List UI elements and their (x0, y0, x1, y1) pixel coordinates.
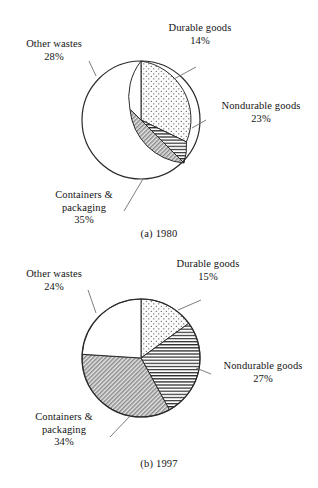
pie-a-label-durable-name: Durable goods (169, 22, 232, 33)
pie-b-label-durable-name: Durable goods (177, 258, 240, 269)
pie-a-label-nondurable-name: Nondurable goods (222, 100, 301, 111)
pie-a-label-nondurable: Nondurable goods 23% (209, 100, 313, 125)
pie-a-leader-nondurable (192, 120, 206, 128)
pie-a-label-durable-pct: 14% (147, 35, 253, 48)
pie-a-label-containers-line1: Containers & (55, 189, 112, 200)
pie-b-label-other: Other wastes 24% (8, 268, 100, 293)
pie-b-label-nondurable-name: Nondurable goods (224, 360, 303, 371)
pie-b-label-containers-line2: packaging (22, 424, 106, 437)
pie-b-label-other-name: Other wastes (26, 268, 82, 279)
pie-b-label-containers-pct: 34% (22, 436, 106, 449)
pie-a-label-other-name: Other wastes (26, 38, 82, 49)
pie-a-label-durable: Durable goods 14% (147, 22, 253, 47)
pie-b-label-durable-pct: 15% (155, 271, 261, 284)
pie-b-leader-containers (110, 415, 131, 437)
pie-a-label-other-pct: 28% (8, 51, 100, 64)
pie-a-caption: (a) 1980 (0, 228, 318, 239)
pie-b-leader-other (88, 290, 96, 313)
pie-a-label-containers: Containers & packaging 35% (42, 189, 126, 227)
pie-a-label-containers-pct: 35% (42, 214, 126, 227)
pie-b-label-nondurable-pct: 27% (211, 373, 315, 386)
pie-b-caption: (b) 1997 (0, 458, 318, 469)
waste-composition-figure: Durable goods 14% Other wastes 28% Nondu… (0, 0, 318, 488)
pie-a-label-nondurable-pct: 23% (209, 113, 313, 126)
pie-b-label-nondurable: Nondurable goods 27% (211, 360, 315, 385)
pie-b-leader-durable (178, 300, 201, 310)
pie-a-label-other: Other wastes 28% (8, 38, 100, 63)
pie-a-label-containers-line2: packaging (42, 202, 126, 215)
pie-a-leader-containers (124, 179, 143, 211)
pie-a-leader-other (89, 61, 96, 76)
pie-b-slice-other (82, 299, 141, 358)
pie-b-label-other-pct: 24% (8, 281, 100, 294)
pie-b-label-containers: Containers & packaging 34% (22, 411, 106, 449)
pie-b-label-durable: Durable goods 15% (155, 258, 261, 283)
pie-b-label-containers-line1: Containers & (35, 411, 92, 422)
